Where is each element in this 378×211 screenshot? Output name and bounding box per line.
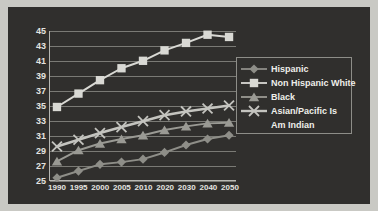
legend-item-am-indian[interactable]: Am Indian — [240, 118, 348, 132]
legend-label: Am Indian — [271, 120, 315, 130]
plot-area: 2527293133353739414345 19901995200020052… — [49, 31, 236, 181]
legend-marker-icon — [240, 105, 268, 117]
x-tick-label: 1990 — [48, 184, 66, 192]
data-point-marker — [160, 148, 169, 157]
chart-legend: HispanicNon Hispanic WhiteBlackAsian/Pac… — [236, 57, 352, 134]
data-point-marker — [225, 33, 233, 41]
legend-label: Hispanic — [271, 64, 309, 74]
y-tick-label: 29 — [36, 147, 46, 156]
data-point-marker — [139, 57, 147, 65]
data-point-marker — [160, 46, 168, 54]
y-tick-label: 31 — [36, 132, 46, 141]
image-frame: 2527293133353739414345 19901995200020052… — [0, 0, 378, 211]
y-tick-label: 25 — [36, 177, 46, 186]
series-line — [57, 35, 229, 107]
data-point-marker — [53, 103, 61, 111]
data-point-marker — [181, 140, 190, 149]
x-tick-label: 2030 — [178, 184, 196, 192]
legend-marker-icon — [240, 63, 268, 75]
y-tick-label: 35 — [36, 102, 46, 111]
legend-label: Asian/Pacific Is — [271, 106, 337, 116]
y-tick-label: 37 — [36, 87, 46, 96]
y-tick-label: 27 — [36, 162, 46, 171]
data-point-marker — [249, 64, 258, 73]
y-tick-label: 45 — [36, 27, 46, 36]
y-tick-label: 39 — [36, 72, 46, 81]
x-tick-label: 2000 — [91, 184, 109, 192]
legend-label: Non Hispanic White — [271, 78, 356, 88]
legend-marker-icon — [240, 91, 268, 103]
x-tick-label: 2005 — [113, 184, 131, 192]
data-point-marker — [138, 155, 147, 164]
gridline — [50, 181, 236, 182]
data-point-marker — [203, 31, 211, 39]
data-point-marker — [203, 134, 212, 143]
x-tick-label: 1995 — [70, 184, 88, 192]
data-point-marker — [74, 89, 82, 97]
series-canvas — [50, 31, 236, 180]
data-point-marker — [117, 158, 126, 167]
data-point-marker — [250, 79, 258, 87]
x-tick-label: 2020 — [156, 184, 174, 192]
x-tick-label: 2040 — [199, 184, 217, 192]
data-point-marker — [224, 131, 233, 140]
data-point-marker — [96, 76, 104, 84]
y-tick-label: 41 — [36, 57, 46, 66]
chart-plate: 2527293133353739414345 19901995200020052… — [8, 7, 370, 204]
y-tick-label: 43 — [36, 42, 46, 51]
legend-item-non-hispanic-white[interactable]: Non Hispanic White — [240, 76, 348, 90]
x-tick-label: 2010 — [135, 184, 153, 192]
series-non-hispanic-white — [53, 31, 233, 112]
data-point-marker — [182, 39, 190, 47]
legend-item-hispanic[interactable]: Hispanic — [240, 62, 348, 76]
data-point-marker — [95, 160, 104, 169]
legend-item-black[interactable]: Black — [240, 90, 348, 104]
y-tick-label: 33 — [36, 117, 46, 126]
legend-item-asian-pacific-is[interactable]: Asian/Pacific Is — [240, 104, 348, 118]
data-point-marker — [74, 166, 83, 175]
data-point-marker — [117, 64, 125, 72]
legend-marker-icon — [240, 77, 268, 89]
data-point-marker — [52, 157, 62, 166]
legend-label: Black — [271, 92, 295, 102]
x-tick-label: 2050 — [221, 184, 239, 192]
